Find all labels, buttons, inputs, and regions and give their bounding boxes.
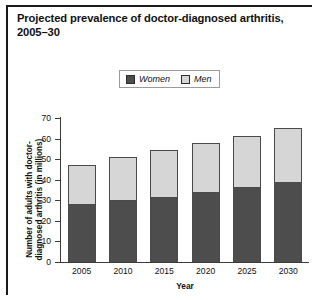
bar-stack[interactable] — [233, 136, 261, 263]
bar-segment-men[interactable] — [233, 136, 261, 187]
y-tick-mark — [55, 159, 60, 160]
x-axis-label: Year — [61, 281, 309, 291]
y-tick-mark — [55, 221, 60, 222]
chart-figure: Projected prevalence of doctor-diagnosed… — [0, 0, 318, 300]
x-tick-label: 2020 — [186, 266, 226, 276]
x-axis-line — [60, 262, 309, 263]
y-tick-mark — [55, 180, 60, 181]
y-tick-label: 0 — [46, 257, 51, 267]
x-tick-label: 2010 — [103, 266, 143, 276]
bar-segment-women[interactable] — [109, 200, 137, 262]
y-axis-label: Number of adults with doctor-diagnosed a… — [25, 134, 44, 266]
y-tick-mark — [55, 139, 60, 140]
x-tick-label: 2005 — [62, 266, 102, 276]
bar-segment-women[interactable] — [68, 204, 96, 262]
x-tick-label: 2025 — [227, 266, 267, 276]
bar-segment-men[interactable] — [150, 150, 178, 197]
y-tick-mark — [55, 262, 60, 263]
y-tick-mark — [55, 241, 60, 242]
bar-stack[interactable] — [109, 157, 137, 262]
bar-group — [61, 118, 309, 262]
bar-segment-women[interactable] — [150, 197, 178, 262]
bar-segment-men[interactable] — [274, 128, 302, 181]
bar-segment-men[interactable] — [192, 143, 220, 192]
x-tick-label: 2015 — [144, 266, 184, 276]
bar-stack[interactable] — [68, 165, 96, 262]
bar-segment-women[interactable] — [192, 192, 220, 262]
y-tick-label: 70 — [41, 113, 51, 123]
bar-segment-women[interactable] — [233, 187, 261, 262]
plot-area: 010203040506070 Number of adults with do… — [0, 0, 318, 300]
x-tick-label: 2030 — [268, 266, 308, 276]
bar-stack[interactable] — [274, 128, 302, 262]
bar-segment-men[interactable] — [68, 165, 96, 204]
y-tick-mark — [55, 200, 60, 201]
bar-segment-women[interactable] — [274, 182, 302, 262]
bar-stack[interactable] — [150, 150, 178, 262]
bar-segment-men[interactable] — [109, 157, 137, 200]
y-tick-mark — [55, 118, 60, 119]
bar-stack[interactable] — [192, 143, 220, 262]
